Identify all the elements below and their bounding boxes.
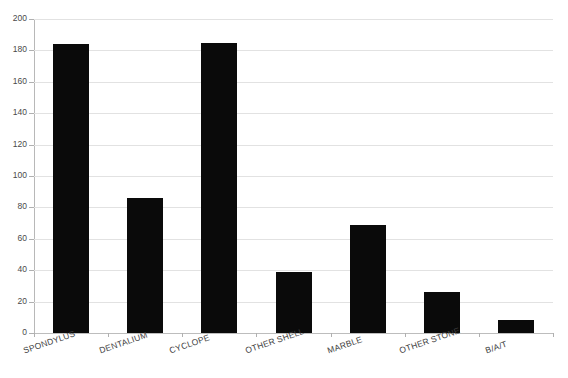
x-tick-mark — [405, 333, 406, 337]
y-tick-label: 20 — [18, 297, 27, 306]
y-tick-label: 100 — [13, 171, 27, 180]
gridline — [34, 113, 553, 114]
y-tick-mark — [29, 239, 34, 240]
bar-chart: 020406080100120140160180200 SPONDYLUSDEN… — [0, 0, 568, 378]
bar — [53, 44, 89, 333]
x-tick-mark — [331, 333, 332, 337]
y-tick-mark — [29, 145, 34, 146]
x-tick-mark — [108, 333, 109, 337]
y-tick-mark — [29, 176, 34, 177]
x-tick-mark — [182, 333, 183, 337]
x-tick-mark — [479, 333, 480, 337]
x-category-label: DENTALIUM — [98, 330, 149, 356]
x-tick-mark — [553, 333, 554, 337]
x-tick-mark — [256, 333, 257, 337]
bar — [350, 225, 386, 333]
gridline — [34, 176, 553, 177]
gridline — [34, 207, 553, 208]
bar — [127, 198, 163, 333]
x-category-label: CYCLOPE — [168, 332, 211, 355]
y-tick-mark — [29, 207, 34, 208]
gridline — [34, 145, 553, 146]
y-tick-label: 40 — [18, 265, 27, 274]
gridline — [34, 239, 553, 240]
y-tick-label: 200 — [13, 14, 27, 23]
y-tick-mark — [29, 113, 34, 114]
x-category-label: B/A/T — [484, 339, 508, 356]
y-tick-label: 80 — [18, 202, 27, 211]
y-tick-label: 60 — [18, 234, 27, 243]
y-tick-mark — [29, 82, 34, 83]
bar — [498, 320, 534, 333]
gridline — [34, 50, 553, 51]
plot-area — [34, 19, 553, 333]
x-tick-mark — [34, 333, 35, 337]
y-tick-mark — [29, 270, 34, 271]
x-category-label: MARBLE — [326, 334, 363, 355]
y-tick-mark — [29, 19, 34, 20]
y-tick-mark — [29, 302, 34, 303]
bar — [201, 43, 237, 333]
y-tick-label: 180 — [13, 45, 27, 54]
y-tick-label: 120 — [13, 140, 27, 149]
y-tick-label: 160 — [13, 77, 27, 86]
gridline — [34, 19, 553, 20]
y-tick-mark — [29, 50, 34, 51]
gridline — [34, 82, 553, 83]
bar — [276, 272, 312, 333]
y-axis-tick-labels: 020406080100120140160180200 — [0, 0, 27, 378]
x-axis-category-labels: SPONDYLUSDENTALIUMCYCLOPEOTHER SHELLMARB… — [0, 334, 568, 378]
y-tick-label: 140 — [13, 108, 27, 117]
